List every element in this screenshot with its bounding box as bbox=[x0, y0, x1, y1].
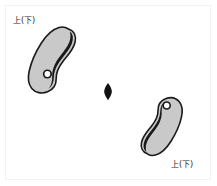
comma-bead-lower-right bbox=[141, 98, 182, 156]
center-lens-marker-shape bbox=[104, 83, 112, 100]
orientation-label-bottom-right: 上(下) bbox=[171, 160, 193, 170]
figure-canvas: 上(下) 上(下) bbox=[0, 0, 217, 186]
center-lens-marker bbox=[104, 83, 112, 100]
orientation-label-top-left: 上(下) bbox=[13, 16, 35, 26]
illustration-drawing bbox=[0, 0, 217, 186]
comma-bead-lower-right-perforation-hole bbox=[164, 103, 169, 108]
comma-bead-upper-left-perforation-hole bbox=[45, 71, 51, 77]
comma-bead-upper-left bbox=[28, 27, 75, 93]
